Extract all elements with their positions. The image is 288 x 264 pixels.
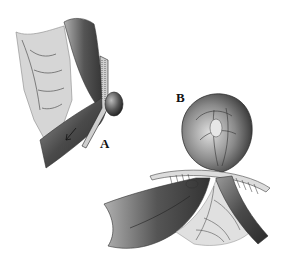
anatomical-illustration [0, 0, 288, 264]
bulge-a [105, 92, 123, 116]
figure-label-b: B [176, 90, 185, 106]
figure-label-a: A [100, 136, 109, 152]
figure-b [104, 94, 270, 249]
